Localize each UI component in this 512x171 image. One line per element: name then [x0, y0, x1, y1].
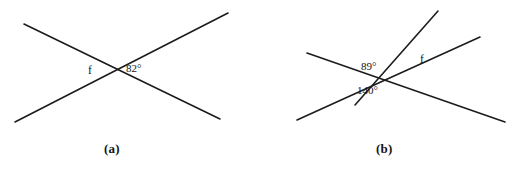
- panel-b-angle-label-89: 89°: [361, 61, 376, 72]
- panel-b-angle-label-f: f: [420, 54, 424, 66]
- figure-canvas: [0, 0, 512, 171]
- panel-a-caption: (a): [104, 142, 120, 155]
- panel-a-angle-label-82: 82°: [126, 63, 141, 74]
- panel-b-lines: [297, 11, 505, 122]
- panel-b-angle-label-140: 140°: [357, 85, 378, 96]
- panel-a-lines: [15, 13, 228, 122]
- panel-b-line-shallow-rising: [297, 37, 480, 120]
- panel-a-angle-label-f: f: [88, 65, 92, 77]
- geometry-figure: f 82° (a) 89° f 140° (b): [0, 0, 512, 171]
- panel-a-line-rising: [15, 13, 228, 122]
- panel-b-caption: (b): [376, 142, 393, 155]
- panel-b-line-shallow-falling: [307, 53, 505, 122]
- panel-a-line-falling: [24, 24, 220, 119]
